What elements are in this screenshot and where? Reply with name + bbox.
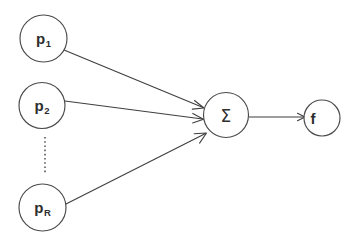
input-node-p1-label: p1 (36, 30, 51, 48)
p2-base: p (35, 97, 44, 114)
pR-subscript: R (44, 207, 51, 218)
edge-group (64, 50, 305, 205)
arrowhead-p1-to-sum (192, 101, 204, 110)
diagram-canvas (0, 0, 359, 245)
pR-base: p (34, 199, 43, 216)
p2-subscript: 2 (44, 105, 49, 116)
p1-base: p (36, 30, 45, 47)
summation-node-label: Σ (221, 106, 232, 126)
output-node-f-label: f (310, 110, 315, 127)
node-group (19, 15, 340, 231)
neuron-diagram: p1 p2 pR Σ f (0, 0, 359, 245)
p1-subscript: 1 (46, 38, 51, 49)
output-node-f[interactable] (304, 100, 340, 136)
edge-p1-to-sum (64, 50, 203, 108)
edge-pR-to-sum (64, 134, 206, 206)
input-node-p2-label: p2 (35, 97, 50, 115)
edge-p2-to-sum (65, 101, 203, 119)
input-node-pR-label: pR (34, 199, 50, 217)
